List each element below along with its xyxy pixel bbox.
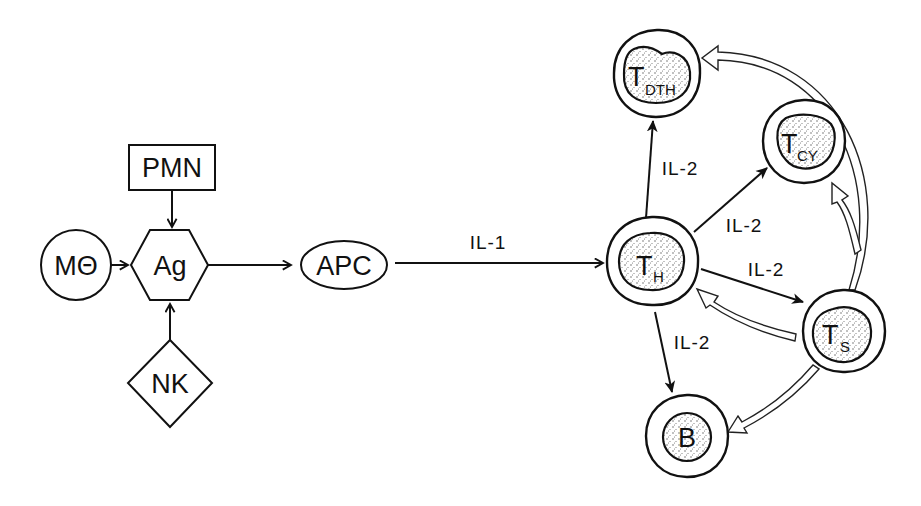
arrow-th-to-tdth bbox=[646, 121, 653, 218]
il2-label-tdth: IL-2 bbox=[662, 158, 699, 179]
tdth-sub-label: DTH bbox=[645, 81, 676, 98]
th-main-label: T bbox=[636, 251, 653, 281]
ts-sub-label: S bbox=[840, 338, 850, 355]
antigen-label: Ag bbox=[153, 251, 186, 281]
tcy-sub-label: CY bbox=[797, 147, 818, 164]
apc-node: APC bbox=[301, 241, 387, 289]
antigen-node: Ag bbox=[131, 230, 208, 300]
th-sub-label: H bbox=[653, 268, 664, 285]
tdth-cell: T DTH bbox=[614, 30, 700, 117]
apc-label: APC bbox=[316, 251, 372, 281]
macrophage-label: MΘ bbox=[54, 251, 98, 281]
il1-label: IL-1 bbox=[470, 232, 507, 253]
pmn-node: PMN bbox=[129, 145, 215, 190]
arrow-th-to-b bbox=[655, 312, 672, 392]
hollow-arrow-ts-to-th bbox=[697, 289, 796, 341]
b-label: B bbox=[678, 423, 696, 453]
il2-label-ts: IL-2 bbox=[748, 259, 785, 280]
pmn-label: PMN bbox=[142, 153, 202, 183]
hollow-arrow-ts-to-b bbox=[728, 365, 819, 433]
il2-label-b: IL-2 bbox=[674, 332, 711, 353]
hollow-arrow-ts-to-tcy bbox=[832, 183, 861, 254]
ts-main-label: T bbox=[822, 320, 839, 350]
tcy-cell: T CY bbox=[763, 100, 845, 183]
macrophage-node: MΘ bbox=[41, 230, 111, 300]
immune-cell-interaction-diagram: MΘ PMN Ag NK APC IL-1 IL-2 IL-2 bbox=[0, 0, 921, 506]
tcy-main-label: T bbox=[781, 129, 798, 159]
il2-label-tcy: IL-2 bbox=[726, 215, 763, 236]
ts-cell: T S bbox=[803, 290, 885, 372]
b-cell: B bbox=[646, 395, 728, 477]
tdth-main-label: T bbox=[628, 62, 645, 92]
th-cell: T H bbox=[607, 217, 698, 305]
nk-label: NK bbox=[151, 369, 189, 399]
nk-node: NK bbox=[128, 340, 212, 427]
